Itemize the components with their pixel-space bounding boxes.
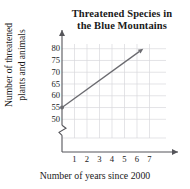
plot-area xyxy=(62,38,174,152)
series-start-point-0 xyxy=(60,106,64,110)
series-line-0 xyxy=(62,52,139,108)
plot-svg xyxy=(62,38,190,164)
data-series-layer xyxy=(60,49,143,110)
chart-figure: Threatened Species in the Blue Mountains… xyxy=(0,0,190,189)
gridlines xyxy=(62,44,166,138)
